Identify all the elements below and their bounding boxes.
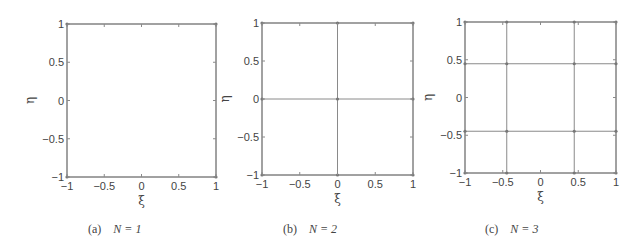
caption-equation: N = 3	[510, 222, 538, 236]
x-tick-label: −0.5	[93, 180, 115, 192]
mesh-node	[614, 130, 617, 133]
y-tick-label: 1	[58, 18, 64, 30]
x-tick-label: 1	[213, 180, 219, 192]
axes-frame	[67, 24, 216, 177]
mesh-node	[573, 20, 576, 23]
plot-canvas: −1−0.500.51−1−0.500.51ξη−1−0.500.51−1−0.…	[0, 0, 641, 249]
x-axis-label: ξ	[537, 190, 544, 204]
caption-equation: N = 2	[309, 222, 337, 236]
mesh-node	[463, 62, 466, 65]
caption-b: (b) N = 2	[283, 222, 337, 237]
y-tick-label: −0.5	[42, 133, 64, 145]
y-tick-label: 0	[253, 93, 259, 105]
x-tick-label: 0.5	[171, 180, 186, 192]
x-axis-label: ξ	[138, 194, 145, 208]
mesh-node	[505, 171, 508, 174]
y-tick-label: 1	[456, 16, 462, 28]
y-tick-label: 0.5	[244, 55, 259, 67]
caption-a: (a) N = 1	[88, 222, 141, 237]
y-tick-label: 0	[456, 92, 462, 104]
y-tick-label: 1	[253, 17, 259, 29]
y-tick-label: −0.5	[237, 131, 259, 143]
y-axis-label: η	[218, 95, 232, 102]
x-tick-label: 1	[613, 176, 619, 188]
mesh-node	[505, 130, 508, 133]
x-tick-label: 0	[537, 176, 543, 188]
x-tick-label: 0	[334, 178, 340, 190]
y-tick-label: 0.5	[49, 56, 64, 68]
x-tick-label: 0	[138, 180, 144, 192]
y-tick-label: 0	[58, 95, 64, 107]
mesh-node	[614, 62, 617, 65]
mesh-node	[573, 62, 576, 65]
axes-frame	[465, 22, 616, 173]
y-tick-label: −1	[51, 171, 64, 183]
mesh-node	[505, 20, 508, 23]
mesh-node	[573, 171, 576, 174]
caption-equation: N = 1	[113, 222, 141, 236]
caption-tag: (b)	[283, 222, 297, 236]
caption-c: (c) N = 3	[485, 222, 538, 237]
y-axis-label: η	[421, 94, 435, 101]
y-tick-label: −0.5	[440, 129, 462, 141]
y-tick-label: −1	[246, 169, 259, 181]
x-axis-label: ξ	[334, 192, 341, 206]
plot-panel-a: −1−0.500.51−1−0.500.51ξη	[23, 18, 219, 208]
caption-tag: (c)	[485, 222, 498, 236]
y-axis-label: η	[23, 97, 37, 104]
y-tick-label: −1	[449, 167, 462, 179]
x-tick-label: 1	[410, 178, 416, 190]
plot-panel-b: −1−0.500.51−1−0.500.51ξη	[218, 17, 416, 206]
x-tick-label: −0.5	[289, 178, 311, 190]
mesh-node	[336, 97, 339, 100]
x-tick-label: 0.5	[368, 178, 383, 190]
caption-tag: (a)	[88, 222, 101, 236]
y-tick-label: 0.5	[447, 54, 462, 66]
mesh-node	[505, 62, 508, 65]
x-tick-label: 0.5	[571, 176, 586, 188]
mesh-node	[573, 130, 576, 133]
mesh-node	[463, 130, 466, 133]
x-tick-label: −0.5	[492, 176, 514, 188]
plot-panel-c: −1−0.500.51−1−0.500.51ξη	[421, 16, 619, 204]
